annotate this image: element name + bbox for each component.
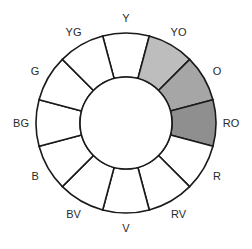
label-b: B: [31, 170, 38, 182]
label-o: O: [213, 65, 222, 77]
label-yo: YO: [171, 26, 187, 38]
label-y: Y: [122, 12, 130, 24]
label-rv: RV: [171, 208, 187, 220]
label-bg: BG: [13, 117, 29, 129]
inner-circle: [80, 77, 172, 169]
label-bv: BV: [66, 208, 81, 220]
label-yg: YG: [66, 26, 82, 38]
label-r: R: [213, 170, 221, 182]
label-v: V: [122, 222, 130, 234]
label-g: G: [31, 65, 40, 77]
color-wheel: YYOORORRVVBVBBGGYG: [0, 0, 252, 249]
label-ro: RO: [223, 117, 240, 129]
